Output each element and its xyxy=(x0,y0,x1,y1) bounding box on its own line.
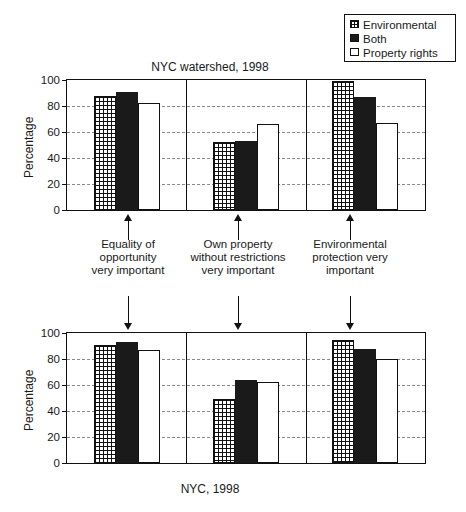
bar-both xyxy=(235,380,257,463)
arrow-stem-up xyxy=(350,218,351,240)
annotation-line: without restrictions xyxy=(182,251,294,264)
y-tick-label: 40 xyxy=(34,405,60,417)
bar-environmental xyxy=(332,340,354,464)
arrow-stem-down xyxy=(128,296,129,324)
bar-environmental xyxy=(94,96,116,210)
bar-both xyxy=(235,141,257,210)
bar-property-rights xyxy=(138,350,160,463)
legend-item: Environmental xyxy=(350,18,451,32)
legend-item: Both xyxy=(350,32,451,46)
bar-both xyxy=(354,349,376,463)
arrow-stem-down xyxy=(238,296,239,324)
top-chart-plot-area xyxy=(66,79,426,211)
bar-both xyxy=(116,342,138,463)
bar-environmental xyxy=(213,142,235,210)
annotation-line: important xyxy=(294,264,406,277)
y-tick-label: 0 xyxy=(34,457,60,469)
bar-property-rights xyxy=(376,123,398,210)
group-separator xyxy=(186,80,187,210)
y-tick-label: 20 xyxy=(34,178,60,190)
y-tick-label: 60 xyxy=(34,126,60,138)
y-tick-label: 100 xyxy=(34,327,60,339)
bar-property-rights xyxy=(138,103,160,210)
y-tick-label: 0 xyxy=(34,204,60,216)
annotation-line: very important xyxy=(182,264,294,277)
arrow-up-icon xyxy=(346,214,354,221)
grid-swatch-icon xyxy=(350,20,359,28)
bar-property-rights xyxy=(376,359,398,463)
legend-item-label: Environmental xyxy=(363,18,437,32)
bar-environmental xyxy=(94,345,116,463)
top-chart-title: NYC watershed, 1998 xyxy=(60,60,360,74)
bar-property-rights xyxy=(257,382,279,463)
arrow-stem-down xyxy=(350,296,351,324)
solid-swatch-icon xyxy=(350,34,359,42)
legend-item-label: Property rights xyxy=(363,46,438,60)
group-separator xyxy=(186,333,187,463)
arrow-stem-up xyxy=(128,218,129,240)
arrow-up-icon xyxy=(124,214,132,221)
arrow-down-icon xyxy=(124,323,132,330)
bar-property-rights xyxy=(257,124,279,210)
bar-both xyxy=(116,92,138,210)
group-separator xyxy=(306,80,307,210)
y-tick-label: 100 xyxy=(34,74,60,86)
white-swatch-icon xyxy=(350,48,359,56)
bottom-chart-plot-area xyxy=(66,332,426,464)
arrow-stem-up xyxy=(238,218,239,240)
y-tick-label: 40 xyxy=(34,152,60,164)
y-tick-label: 20 xyxy=(34,431,60,443)
annotation-line: opportunity xyxy=(72,251,184,264)
chart-legend: Environmental Both Property rights xyxy=(344,14,456,62)
y-tick-label: 80 xyxy=(34,100,60,112)
group-separator xyxy=(306,333,307,463)
bar-both xyxy=(354,97,376,210)
bar-environmental xyxy=(332,81,354,210)
arrow-down-icon xyxy=(346,323,354,330)
bar-environmental xyxy=(213,399,235,463)
legend-item: Property rights xyxy=(350,46,451,60)
arrow-down-icon xyxy=(234,323,242,330)
annotation-line: protection very xyxy=(294,251,406,264)
y-tick-label: 60 xyxy=(34,379,60,391)
y-tick-label: 80 xyxy=(34,353,60,365)
arrow-up-icon xyxy=(234,214,242,221)
bottom-chart-title: NYC, 1998 xyxy=(60,482,360,496)
legend-item-label: Both xyxy=(363,32,387,46)
annotation-line: very important xyxy=(72,264,184,277)
